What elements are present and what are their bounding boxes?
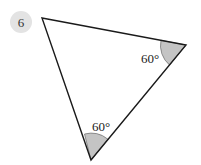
angle-marker-bottom <box>85 133 109 160</box>
angle-label-right: 60° <box>141 51 159 66</box>
question-number: 6 <box>18 15 25 30</box>
angle-label-bottom: 60° <box>92 119 110 134</box>
triangle <box>42 18 186 160</box>
triangle-diagram: 6 60° 60° <box>0 0 201 165</box>
question-number-badge: 6 <box>10 11 32 33</box>
